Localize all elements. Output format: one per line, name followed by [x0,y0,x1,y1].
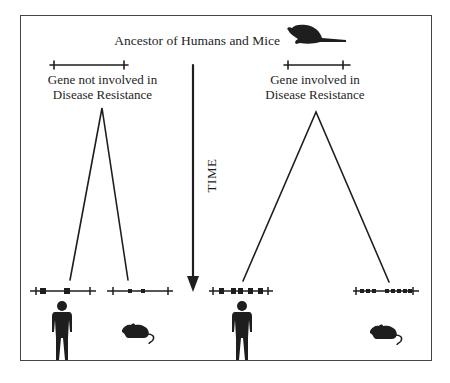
gene-label-involved-line2: Disease Resistance [250,87,380,102]
gene-line-human-left [30,287,96,295]
ancestor-title: Ancestor of Humans and Mice [70,33,280,48]
ancestor-rodent-icon [287,25,346,44]
mouse-icon-right [370,325,402,346]
gene-label-involved: Gene involved in Disease Resistance [250,72,380,102]
ancestor-gene-right [284,61,350,69]
evolution-diagram [0,0,450,383]
ancestor-gene-left [50,61,128,69]
mouse-icon-left [122,324,154,345]
gene-label-involved-line1: Gene involved in [250,72,380,87]
gene-line-mouse-right [353,287,419,295]
divergence-lines-left [70,108,128,280]
gene-line-mouse-left [107,287,173,295]
divergence-lines-right [243,112,389,282]
time-arrow-head [187,276,199,292]
gene-line-human-right [209,287,273,295]
human-icon-left [52,301,72,360]
time-axis-label: TIME [204,151,219,201]
human-icon-right [232,301,252,360]
gene-label-not-involved: Gene not involved in Disease Resistance [40,72,165,102]
gene-label-not-involved-line1: Gene not involved in [40,72,165,87]
gene-label-not-involved-line2: Disease Resistance [40,87,165,102]
